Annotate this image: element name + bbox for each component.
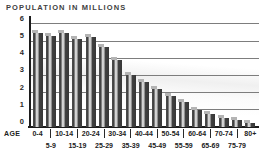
x-label-55-59: 55-59 xyxy=(169,142,199,149)
x-label-80+: 80+ xyxy=(235,130,265,137)
bar-60-64 xyxy=(192,110,202,127)
bar-20-24 xyxy=(86,37,96,127)
x-label-40-44: 40-44 xyxy=(129,130,159,137)
x-label-50-54: 50-54 xyxy=(156,130,186,137)
y-tick-label-4: 4 xyxy=(8,49,24,57)
x-label-5-9: 5-9 xyxy=(36,142,66,149)
y-tick-label-0: 0 xyxy=(8,118,24,126)
gridline-6 xyxy=(31,23,259,24)
x-label-15-19: 15-19 xyxy=(62,142,92,149)
x-label-20-24: 20-24 xyxy=(76,130,106,137)
chart-title: POPULATION IN MILLIONS xyxy=(6,3,126,12)
x-label-70-74: 70-74 xyxy=(209,130,239,137)
bar-40-44 xyxy=(139,82,149,127)
x-label-30-34: 30-34 xyxy=(102,130,132,137)
population-chart: POPULATION IN MILLIONS 0123456 AGE 0-45-… xyxy=(0,0,266,164)
y-axis-line xyxy=(29,16,31,127)
bar-25-29 xyxy=(99,47,109,127)
y-tick-label-3: 3 xyxy=(8,66,24,74)
bar-75-79 xyxy=(232,120,242,127)
y-tick-label-2: 2 xyxy=(8,84,24,92)
bar-45-49 xyxy=(152,89,162,127)
y-tick-label-1: 1 xyxy=(8,101,24,109)
bar-35-39 xyxy=(126,75,136,127)
x-label-25-29: 25-29 xyxy=(89,142,119,149)
bar-5-9 xyxy=(46,36,56,127)
x-label-0-4: 0-4 xyxy=(23,130,53,137)
bar-30-34 xyxy=(112,60,122,127)
bar-80+ xyxy=(245,123,255,127)
x-label-10-14: 10-14 xyxy=(49,130,79,137)
bar-70-74 xyxy=(219,118,229,127)
x-label-75-79: 75-79 xyxy=(222,142,252,149)
bar-65-69 xyxy=(205,114,215,127)
y-tick-label-6: 6 xyxy=(8,15,24,23)
x-label-60-64: 60-64 xyxy=(182,130,212,137)
bar-50-54 xyxy=(166,96,176,127)
x-label-35-39: 35-39 xyxy=(116,142,146,149)
x-label-65-69: 65-69 xyxy=(195,142,225,149)
bar-15-19 xyxy=(72,39,82,127)
bar-55-59 xyxy=(179,102,189,127)
bar-0-4 xyxy=(33,33,43,127)
x-label-45-49: 45-49 xyxy=(142,142,172,149)
bar-10-14 xyxy=(59,33,69,127)
age-axis-label: AGE xyxy=(4,130,20,137)
y-tick-label-5: 5 xyxy=(8,32,24,40)
